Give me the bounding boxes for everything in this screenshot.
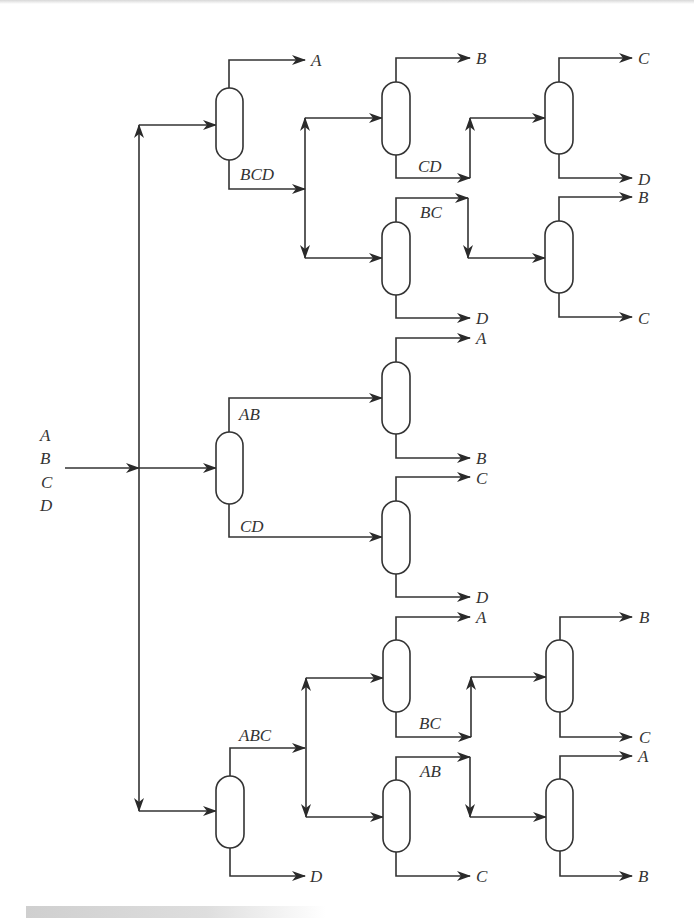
column-c1: A BCD [216, 51, 322, 189]
product-label: D [637, 170, 651, 189]
product-label: D [309, 867, 323, 886]
column-vessel [383, 780, 410, 852]
split-node-bcd [305, 118, 382, 258]
product-label: C [638, 309, 650, 328]
feed-distributor [65, 125, 216, 811]
product-label: A [475, 608, 487, 627]
stream-label: AB [419, 762, 441, 781]
column-vessel [216, 776, 244, 848]
column-vessel [382, 362, 410, 434]
stream-label: BC [419, 714, 441, 733]
product-label: B [638, 188, 649, 207]
product-label: A [310, 51, 322, 70]
column-c2: B CD [382, 49, 487, 178]
column-c9: ABC D [216, 726, 323, 886]
column-vessel [383, 640, 410, 712]
column-c7: A B [382, 329, 487, 468]
distillation-diagram: A B C D A BCD B CD C [0, 0, 694, 920]
column-c4: BC D [382, 198, 489, 328]
product-label: B [476, 49, 487, 68]
column-vessel [216, 88, 243, 160]
column-vessel [546, 640, 573, 712]
product-label: C [638, 49, 650, 68]
feed-labels: A B C D [39, 426, 53, 515]
column-vessel [382, 222, 410, 295]
product-label: C [639, 728, 651, 747]
feed-label-c: C [41, 473, 53, 492]
product-label: B [639, 608, 650, 627]
column-vessel [216, 432, 243, 504]
feed-label-a: A [39, 426, 51, 445]
column-c13: A B [546, 747, 649, 886]
column-vessel [545, 221, 573, 293]
stream-label: BCD [240, 165, 275, 184]
product-label: A [475, 329, 487, 348]
product-label: B [476, 449, 487, 468]
column-c12: AB C [383, 757, 488, 886]
column-vessel [382, 82, 410, 155]
product-label: B [638, 867, 649, 886]
feed-label-b: B [40, 449, 51, 468]
split-node-abc [306, 678, 383, 817]
column-c6: AB CD [216, 398, 382, 537]
stream-label: CD [418, 157, 442, 176]
stream-label: CD [240, 517, 264, 536]
product-label: C [476, 867, 488, 886]
column-c8: C D [382, 469, 489, 607]
column-vessel [546, 779, 573, 851]
stream-label: ABC [238, 726, 272, 745]
column-vessel [382, 501, 410, 574]
product-label: D [475, 588, 489, 607]
feed-label-d: D [39, 496, 53, 515]
product-label: A [637, 747, 649, 766]
column-c3: C D [545, 49, 651, 189]
stream-label: AB [238, 405, 260, 424]
bottom-scan-artifact [26, 906, 326, 918]
product-label: C [476, 469, 488, 488]
column-c5: B C [545, 188, 650, 328]
column-vessel [545, 82, 573, 154]
product-label: D [475, 309, 489, 328]
stream-label: BC [420, 203, 442, 222]
column-c11: B C [546, 608, 651, 747]
